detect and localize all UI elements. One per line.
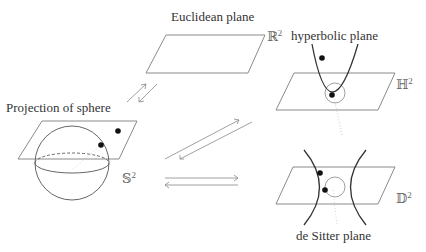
sphere-projection <box>18 121 137 200</box>
hyperbolic-plane <box>276 44 395 135</box>
r2-symbol: ℝ2 <box>267 28 282 45</box>
de-sitter-plane <box>276 150 395 225</box>
euclidean-plane-label: Euclidean plane <box>171 9 254 25</box>
sphere-euclidean-arrows <box>127 84 157 102</box>
sphere-desitter-arrows <box>165 175 238 188</box>
de-sitter-plane-label: de Sitter plane <box>296 228 371 244</box>
h2-symbol: ℍ2 <box>396 76 413 93</box>
euclidean-plane <box>146 35 265 73</box>
sphere-label: Projection of sphere <box>6 100 111 116</box>
sphere-hyperbolic-arrows <box>165 119 252 159</box>
hyperbolic-plane-label: hyperbolic plane <box>291 28 378 44</box>
s2-symbol: 𝕊2 <box>122 170 136 187</box>
d2-symbol: 𝔻2 <box>396 190 412 207</box>
